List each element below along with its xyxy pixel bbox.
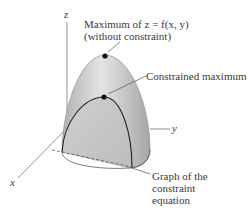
y-axis-label: y [172,122,177,134]
unconstrained-max-point [102,53,107,58]
label-max-unconstrained-2: (without constraint) [84,30,171,42]
x-axis [18,128,67,178]
z-axis-label: z [64,8,68,20]
label-max-unconstrained-1: Maximum of z = f(x, y) [84,18,189,30]
label-constraint-1: Graph of the [152,170,208,182]
label-constrained-max: Constrained maximum [146,70,247,82]
leader-constraint-graph [132,168,150,174]
x-axis-label: x [10,176,15,188]
constrained-max-point [101,94,106,99]
leader-unconstrained [108,42,120,52]
label-constraint-3: equation [152,194,190,206]
label-constraint-2: constraint [152,182,195,194]
